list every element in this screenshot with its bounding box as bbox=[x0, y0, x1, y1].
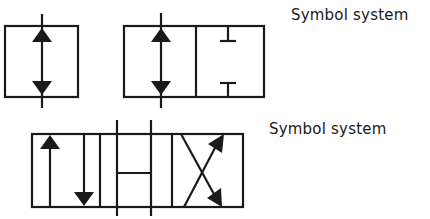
arrow-up-icon bbox=[40, 135, 60, 149]
arrow-down-icon bbox=[151, 81, 171, 95]
valve-envelope bbox=[124, 26, 264, 97]
two-position-valve-symbol bbox=[124, 13, 264, 108]
arrow-down-icon bbox=[32, 81, 52, 95]
arrow-up-right-icon bbox=[208, 134, 224, 153]
single-position-valve-symbol bbox=[5, 14, 78, 108]
three-position-valve-symbol bbox=[32, 120, 243, 216]
arrow-up-icon bbox=[151, 28, 171, 42]
symbol-system-label-top: Symbol system bbox=[291, 8, 408, 23]
arrow-up-icon bbox=[32, 28, 52, 42]
diagram-canvas: Symbol system Symbol system bbox=[0, 0, 430, 219]
arrow-down-icon bbox=[74, 192, 94, 206]
symbol-system-label-bottom: Symbol system bbox=[269, 122, 386, 137]
valve-symbols-drawing bbox=[0, 0, 430, 219]
arrow-down-right-icon bbox=[207, 188, 222, 207]
